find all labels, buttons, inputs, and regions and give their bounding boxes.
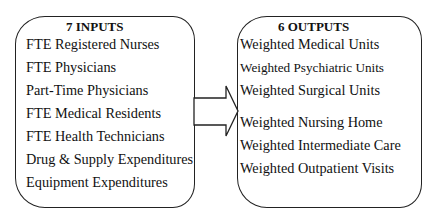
right-arrow-icon xyxy=(0,0,439,224)
